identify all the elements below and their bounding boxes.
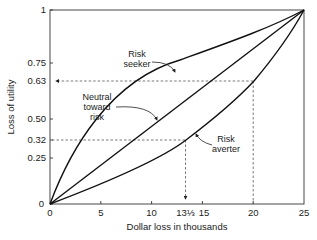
neutral-label: risk: [90, 112, 104, 122]
x-tick-label: 13⅓: [176, 207, 195, 218]
y-axis-title: Loss of utility: [5, 79, 16, 134]
y-tick-label: 0.25: [28, 152, 47, 163]
x-tick-label: 15: [199, 207, 210, 218]
y-tick-label: 0.63: [28, 75, 47, 86]
utility-chart: 0 0.25 0.32 0.50 0.63 0.75 1 Loss of uti…: [0, 0, 317, 240]
averter-label: Risk: [217, 134, 235, 144]
y-tick-label: 0.75: [28, 57, 47, 68]
neutral-leader: [116, 107, 157, 120]
seeker-leader: [152, 62, 175, 72]
y-tick-label: 0: [39, 198, 44, 209]
averter-leader: [196, 134, 212, 145]
seeker-label: seeker: [123, 59, 150, 69]
y-axis: 0 0.25 0.32 0.50 0.63 0.75 1: [28, 4, 54, 209]
neutral-label: Neutral: [82, 92, 111, 102]
x-axis-title: Dollar loss in thousands: [127, 221, 228, 232]
x-tick-label: 25: [299, 207, 310, 218]
y-tick-label: 0.50: [28, 113, 47, 124]
x-tick-label: 5: [98, 207, 103, 218]
x-tick-label: 20: [248, 207, 259, 218]
averter-label: averter: [212, 144, 240, 154]
x-tick-label: 10: [146, 207, 157, 218]
x-tick-label: 0: [47, 207, 52, 218]
y-tick-label: 1: [41, 4, 46, 15]
y-tick-label: 0.32: [28, 134, 47, 145]
neutral-label: toward: [83, 102, 110, 112]
seeker-label: Risk: [128, 49, 146, 59]
